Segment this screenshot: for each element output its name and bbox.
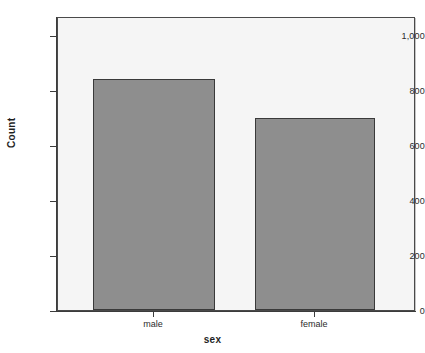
bar-chart: 1,000 800 600 400 200 0 male female Coun…	[0, 0, 425, 353]
plot-inner	[58, 18, 414, 310]
x-tick-label-female: female	[300, 319, 327, 329]
x-tick-label-male: male	[143, 319, 163, 329]
y-axis-title: Count	[6, 118, 17, 148]
y-tick-label-1000: 1,000	[379, 31, 425, 41]
x-axis-line	[56, 311, 416, 312]
y-tick-label-800: 800	[379, 86, 425, 96]
y-tick-label-600: 600	[379, 141, 425, 151]
x-tick-female	[314, 312, 315, 317]
y-tick-label-400: 400	[379, 196, 425, 206]
y-tick-800	[50, 91, 56, 92]
bar-male	[93, 79, 215, 310]
bar-female	[255, 118, 375, 310]
x-axis-title: sex	[0, 334, 425, 345]
y-tick-label-200: 200	[379, 251, 425, 261]
plot-area	[57, 17, 415, 311]
y-axis-line	[56, 17, 57, 312]
y-tick-400	[50, 201, 56, 202]
y-tick-200	[50, 256, 56, 257]
x-tick-male	[153, 312, 154, 317]
y-tick-600	[50, 146, 56, 147]
y-tick-1000	[50, 36, 56, 37]
